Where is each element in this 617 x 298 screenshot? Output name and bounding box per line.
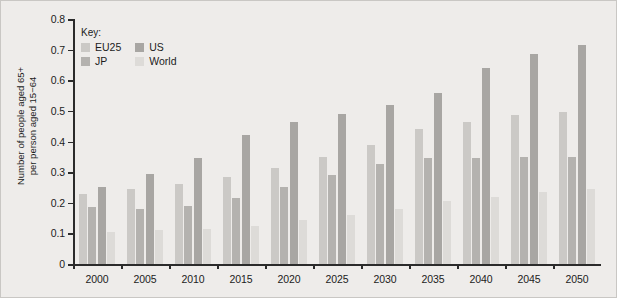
y-tick bbox=[68, 50, 73, 52]
x-tick bbox=[169, 264, 171, 269]
y-tick-label: 0.5 bbox=[51, 105, 65, 117]
y-tick-label: 0.4 bbox=[51, 136, 65, 148]
x-tick-label: 2020 bbox=[278, 273, 301, 285]
x-tick-label: 2040 bbox=[470, 273, 493, 285]
bar-eu25-2030 bbox=[367, 145, 375, 264]
bar-jp-2020 bbox=[280, 187, 288, 264]
bar-eu25-2050 bbox=[559, 112, 567, 264]
y-tick bbox=[68, 19, 73, 21]
x-tick-label: 2035 bbox=[422, 273, 445, 285]
bar-us-2050 bbox=[578, 45, 586, 264]
x-tick bbox=[217, 264, 219, 269]
bar-world-2000 bbox=[107, 232, 115, 264]
y-tick-label: 0 bbox=[59, 258, 65, 270]
bar-jp-2045 bbox=[520, 157, 528, 264]
bar-eu25-2005 bbox=[127, 189, 135, 264]
bar-us-2020 bbox=[290, 122, 298, 264]
bar-jp-2035 bbox=[424, 158, 432, 264]
x-tick-label: 2045 bbox=[518, 273, 541, 285]
bar-world-2005 bbox=[155, 230, 163, 264]
bar-jp-2015 bbox=[232, 198, 240, 264]
bar-world-2020 bbox=[299, 220, 307, 264]
bar-world-2025 bbox=[347, 215, 355, 264]
y-tick-label: 0.2 bbox=[51, 197, 65, 209]
bar-us-2030 bbox=[386, 105, 394, 264]
y-tick-label: 0.3 bbox=[51, 166, 65, 178]
x-tick bbox=[361, 264, 363, 269]
x-tick bbox=[457, 264, 459, 269]
x-axis-line bbox=[73, 264, 601, 266]
bar-jp-2030 bbox=[376, 164, 384, 264]
bar-jp-2010 bbox=[184, 206, 192, 264]
bar-world-2035 bbox=[443, 201, 451, 264]
bar-eu25-2045 bbox=[511, 115, 519, 264]
x-tick-label: 2030 bbox=[374, 273, 397, 285]
bar-us-2005 bbox=[146, 174, 154, 264]
bar-eu25-2010 bbox=[175, 184, 183, 264]
chart-figure: Number of people aged 65+ per person age… bbox=[0, 0, 617, 298]
bar-eu25-2040 bbox=[463, 122, 471, 264]
y-tick-label: 0.7 bbox=[51, 44, 65, 56]
y-tick-label: 0.8 bbox=[51, 13, 65, 25]
bar-eu25-2000 bbox=[79, 194, 87, 264]
y-tick-label: 0.6 bbox=[51, 74, 65, 86]
bar-world-2050 bbox=[587, 189, 595, 264]
x-tick-label: 2015 bbox=[230, 273, 253, 285]
bar-us-2045 bbox=[530, 54, 538, 264]
bar-jp-2005 bbox=[136, 209, 144, 264]
bar-us-2035 bbox=[434, 93, 442, 265]
y-tick bbox=[68, 142, 73, 144]
y-tick bbox=[68, 203, 73, 205]
y-tick bbox=[68, 80, 73, 82]
x-tick bbox=[265, 264, 267, 269]
bar-jp-2050 bbox=[568, 157, 576, 264]
bar-world-2010 bbox=[203, 229, 211, 264]
y-tick-label: 0.1 bbox=[51, 227, 65, 239]
bar-jp-2000 bbox=[88, 207, 96, 264]
x-tick-label: 2050 bbox=[566, 273, 589, 285]
x-tick-label: 2010 bbox=[182, 273, 205, 285]
x-tick-label: 2005 bbox=[134, 273, 157, 285]
y-axis-line bbox=[73, 19, 75, 264]
bar-world-2030 bbox=[395, 209, 403, 264]
y-axis-title: Number of people aged 65+ per person age… bbox=[15, 51, 39, 201]
bar-us-2015 bbox=[242, 135, 250, 264]
bar-us-2010 bbox=[194, 158, 202, 264]
bar-eu25-2035 bbox=[415, 129, 423, 264]
plot-area: 00.10.20.30.40.50.60.70.8 20002005201020… bbox=[73, 19, 601, 264]
x-tick bbox=[553, 264, 555, 269]
y-tick bbox=[68, 233, 73, 235]
bar-us-2000 bbox=[98, 187, 106, 264]
bar-world-2040 bbox=[491, 197, 499, 264]
bar-world-2015 bbox=[251, 226, 259, 264]
bar-eu25-2025 bbox=[319, 157, 327, 264]
y-tick bbox=[68, 172, 73, 174]
x-tick bbox=[409, 264, 411, 269]
bar-eu25-2015 bbox=[223, 177, 231, 264]
bar-jp-2040 bbox=[472, 158, 480, 264]
x-tick bbox=[313, 264, 315, 269]
x-tick bbox=[505, 264, 507, 269]
bar-world-2045 bbox=[539, 192, 547, 264]
y-tick bbox=[68, 111, 73, 113]
bar-us-2025 bbox=[338, 114, 346, 264]
x-tick-label: 2025 bbox=[326, 273, 349, 285]
bar-us-2040 bbox=[482, 68, 490, 264]
bar-jp-2025 bbox=[328, 175, 336, 264]
x-tick-label: 2000 bbox=[86, 273, 109, 285]
x-tick bbox=[121, 264, 123, 269]
x-tick bbox=[73, 264, 75, 269]
bar-eu25-2020 bbox=[271, 168, 279, 264]
